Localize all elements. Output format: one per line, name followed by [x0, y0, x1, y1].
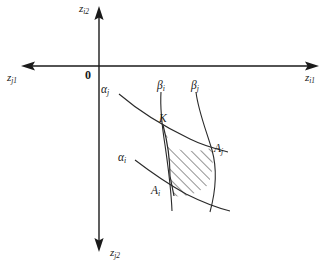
- curve-label-beta-j: βj: [191, 80, 199, 93]
- axis-label-z-i1: zi1: [305, 72, 315, 85]
- point-label-A-j: Aj: [214, 143, 223, 156]
- origin-label: 0: [85, 69, 91, 81]
- curve-label-alpha-i: αi: [118, 152, 126, 165]
- horizontal-axis: [21, 61, 319, 70]
- axis-label-z-j1: zj1: [7, 72, 17, 85]
- axis-label-z-i2: zi2: [79, 3, 89, 16]
- vertical-axis: [94, 6, 103, 252]
- figure-canvas: zi2 zj2 zj1 zi1 0 αj αi βi βj K Ai Aj: [0, 0, 332, 270]
- curve-label-alpha-j: αj: [101, 84, 109, 97]
- diagram-svg: [0, 0, 332, 270]
- curve-label-beta-i: βi: [157, 80, 165, 93]
- point-label-A-i: Ai: [151, 185, 160, 198]
- curve-alpha-j: [119, 94, 228, 152]
- axis-label-z-j2: zj2: [110, 247, 120, 260]
- point-label-K: K: [159, 113, 167, 126]
